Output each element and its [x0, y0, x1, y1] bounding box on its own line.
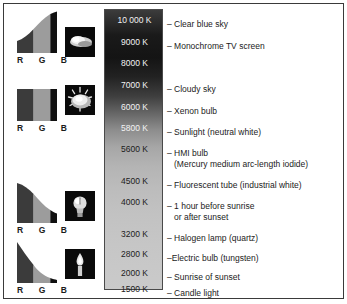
- colour-temperature-figure: R G B: [0, 0, 347, 304]
- scale-tick-6000k: 6000 K: [105, 102, 164, 112]
- rgb-axis-halogen-lamp: R G B: [17, 225, 67, 235]
- scale-tick-1500k: 1500 K: [105, 284, 164, 294]
- kelvin-gradient-scale: 10 000 K 9000 K 8000 K 7000 K 6000 K 580…: [104, 9, 163, 290]
- rgb-axis-sunlight: R G B: [17, 123, 67, 133]
- description-xenon-bulb: – Xenon bulb: [167, 106, 339, 117]
- rgb-axis-label-r: R: [17, 285, 23, 295]
- rgb-plot-clear-blue-sky: [17, 11, 67, 53]
- scale-tick-5600k: 5600 K: [105, 144, 164, 154]
- scale-tick-4000k: 4000 K: [105, 197, 164, 207]
- description-sunlight: – Sunlight (neutral white): [167, 127, 339, 138]
- thumbnail-clear-blue-sky: [65, 27, 95, 57]
- rgb-axis-label-r: R: [17, 225, 23, 235]
- rgb-axis-clear-blue-sky: R G B: [17, 55, 67, 65]
- scale-tick-2000k: 2000 K: [105, 268, 164, 278]
- scale-tick-8000k: 8000 K: [105, 58, 164, 68]
- description-sunrise-sunset: – Sunrise of sunset: [167, 272, 339, 283]
- description-halogen-lamp: – Halogen lamp (quartz): [167, 233, 339, 244]
- description-hmi-bulb-detail: (Mercury medium arc-length iodide): [167, 159, 339, 170]
- rgb-axis-label-g: G: [39, 285, 46, 295]
- scale-tick-4500k: 4500 K: [105, 176, 164, 186]
- rgb-plot-halogen-lamp: [17, 181, 67, 223]
- description-before-sunrise-main: – 1 hour before sunrise: [167, 201, 254, 211]
- rgb-axis-label-r: R: [17, 123, 23, 133]
- description-clear-blue-sky: – Clear blue sky: [167, 19, 339, 30]
- rgb-axis-label-g: G: [39, 55, 46, 65]
- thumbnail-sunlight: [65, 85, 95, 115]
- rgb-histogram-column: R G B: [5, 5, 102, 292]
- rgb-axis-label-g: G: [39, 123, 46, 133]
- description-before-sunrise: – 1 hour before sunrise or after sunset: [167, 201, 339, 222]
- scale-tick-2800k: 2800 K: [105, 249, 164, 259]
- scale-tick-10000k: 10 000 K: [105, 15, 164, 25]
- scale-tick-3200k: 3200 K: [105, 229, 164, 239]
- rgb-axis-label-b: B: [61, 285, 67, 295]
- rgb-axis-label-b: B: [61, 123, 67, 133]
- rgb-axis-label-r: R: [17, 55, 23, 65]
- description-before-sunrise-detail: or after sunset: [167, 212, 339, 223]
- thumbnail-halogen-lamp: [65, 191, 95, 221]
- description-cloudy-sky: – Cloudy sky: [167, 84, 339, 95]
- description-list: – Clear blue sky – Monochrome TV screen …: [167, 6, 339, 293]
- rgb-plot-sunlight: [17, 87, 67, 121]
- rgb-axis-label-b: B: [61, 225, 67, 235]
- scale-tick-7000k: 7000 K: [105, 80, 164, 90]
- description-candle-light: – Candle light: [167, 288, 339, 299]
- description-fluorescent-tube: – Fluorescent tube (industrial white): [167, 180, 339, 191]
- description-hmi-bulb: – HMI bulb (Mercury medium arc-length io…: [167, 148, 339, 169]
- scale-tick-9000k: 9000 K: [105, 37, 164, 47]
- rgb-axis-candle-light: R G B: [17, 285, 67, 295]
- rgb-plot-candle-light: [17, 241, 67, 283]
- thumbnail-candle-light: [65, 249, 95, 279]
- rgb-axis-label-g: G: [39, 225, 46, 235]
- description-electric-bulb: –Electric bulb (tungsten): [167, 253, 339, 264]
- description-hmi-bulb-main: – HMI bulb: [167, 148, 208, 158]
- scale-tick-5800k: 5800 K: [105, 123, 164, 133]
- description-monochrome-tv-screen: – Monochrome TV screen: [167, 41, 339, 52]
